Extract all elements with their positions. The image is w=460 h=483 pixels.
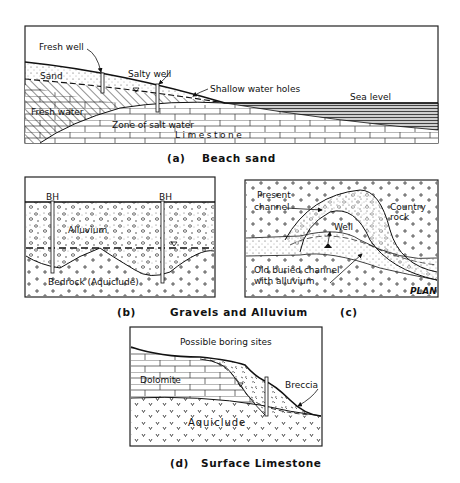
caption-b-letter: (b) [117,306,136,318]
panel-d-surface-limestone: Possible boring sites Dolomite Breccia A… [130,327,322,446]
label-plan: PLAN [410,286,437,296]
panel-c-plan-view: Present channel Country rock Well Old bu… [245,180,438,297]
label-sand: Sand [40,71,63,81]
label-breccia: Breccia [285,380,318,390]
panel-a-beach-sand: Fresh well Salty well Shallow water hole… [25,26,438,143]
label-shallow-water-holes: Shallow water holes [210,84,300,94]
label-bh-left: BH [46,192,59,202]
salty-well-icon [156,84,159,112]
label-old-buried-channel-2: with alluvium [254,276,314,286]
caption-a: Beach sand [202,152,276,164]
label-aquiclude: Aquiclude [188,417,246,428]
label-dolomite: Dolomite [140,375,181,385]
borehole-right-icon [161,201,164,283]
borehole-left-icon [51,201,54,273]
label-limestone: Limestone [175,130,244,140]
caption-bc: Gravels and Alluvium [170,306,308,318]
label-country-rock-2: rock [390,212,410,222]
fresh-well-icon [101,73,104,93]
label-bh-right: BH [159,192,172,202]
caption-d-letter: (d) [170,457,189,469]
caption-d: Surface Limestone [201,457,322,469]
label-zone-salt-water: Zone of salt water [112,120,194,130]
label-old-buried-channel: Old buried channel [254,265,340,275]
caption-a-letter: (a) [167,152,185,164]
groundwater-diagram: Fresh well Salty well Shallow water hole… [0,0,460,483]
caption-c-letter: (c) [340,306,358,318]
label-alluvium: Alluvium [68,225,107,235]
label-salty-well: Salty well [128,69,171,79]
panel-b-alluvium-section: BH BH Alluvium Bedrock (Aquiclude) [25,177,215,297]
label-present-channel-2: channel [254,202,290,212]
label-present-channel: Present [257,190,291,200]
label-bedrock: Bedrock (Aquiclude) [48,277,139,287]
label-possible-boring-sites: Possible boring sites [180,337,272,347]
label-fresh-well: Fresh well [39,42,84,52]
label-well: Well [334,222,353,232]
label-fresh-water: Fresh water [31,107,84,117]
boring-site-icon [265,377,268,416]
label-country-rock: Country [390,202,426,212]
label-sea-level: Sea level [350,92,391,102]
